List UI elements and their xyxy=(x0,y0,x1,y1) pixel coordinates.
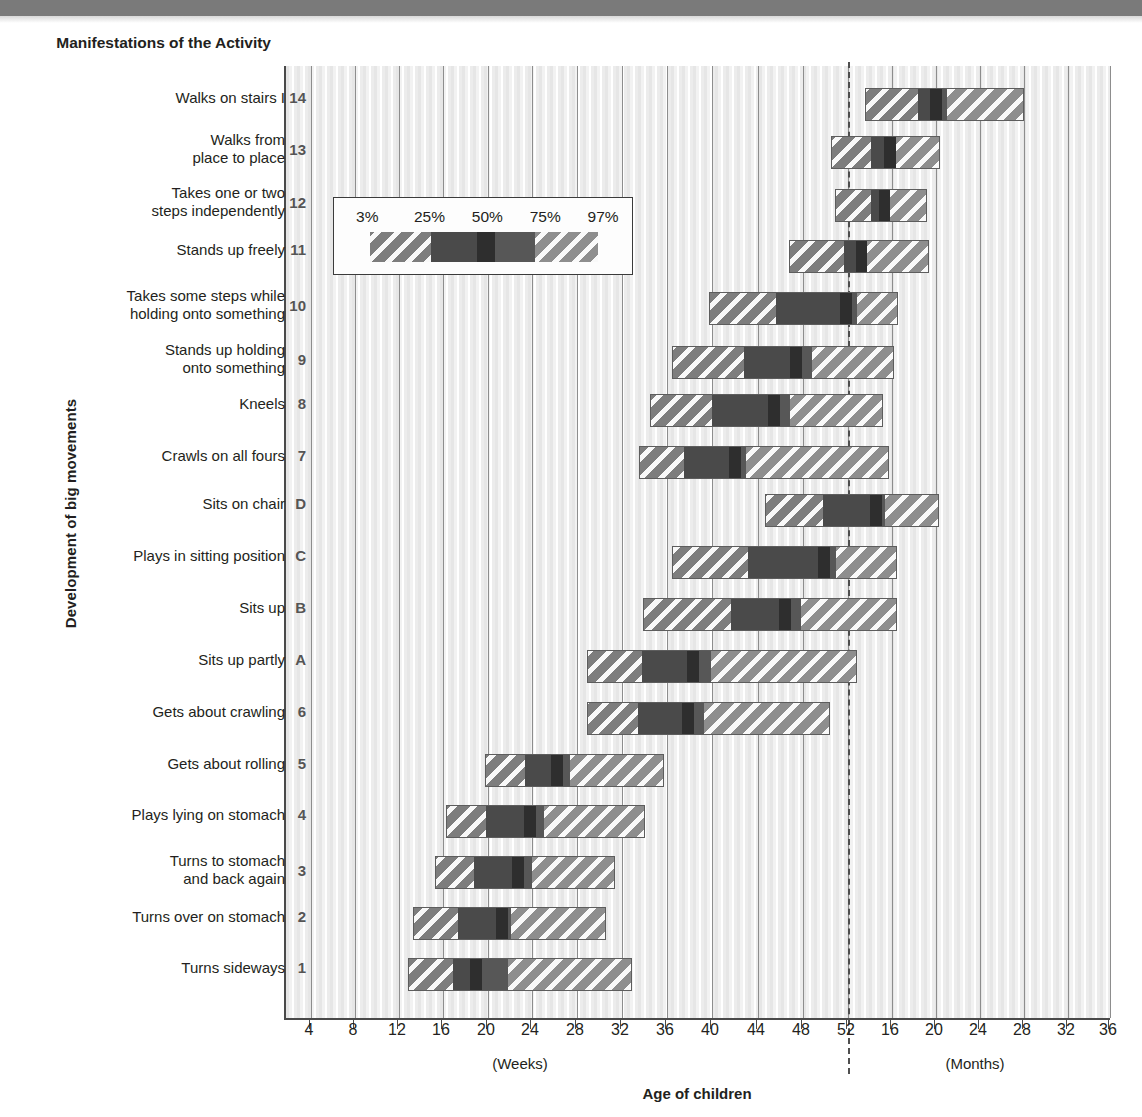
x-tick-label: 20 xyxy=(914,1021,954,1039)
legend-tick-labels: 3%25%50%75%97% xyxy=(334,206,632,228)
legend-tick-25pct: 25% xyxy=(401,208,459,226)
y-code-5: 5 xyxy=(288,755,306,772)
bar-segment-25pct xyxy=(871,137,884,168)
bar-segment-97pct xyxy=(801,599,896,630)
bar-segment-50pct xyxy=(729,447,741,478)
y-code-12: 12 xyxy=(288,194,306,211)
y-code-2: 2 xyxy=(288,908,306,925)
bar-segment-3pct xyxy=(673,347,744,378)
bar-segment-3pct xyxy=(414,908,458,939)
percentile-bar xyxy=(587,702,830,735)
percentile-bar xyxy=(413,907,606,940)
bar-segment-25pct xyxy=(453,959,471,990)
gridline xyxy=(936,66,937,1018)
y-label-8: Kneels xyxy=(0,395,285,413)
bar-segment-3pct xyxy=(409,959,453,990)
y-label-6: Gets about crawling xyxy=(0,703,285,721)
bar-segment-50pct xyxy=(551,755,563,786)
y-code-C: C xyxy=(288,547,306,564)
percentile-bar xyxy=(650,394,883,427)
percentile-bar xyxy=(789,240,929,273)
y-label-11: Stands up freely xyxy=(0,241,285,259)
gridline xyxy=(1068,66,1069,1018)
y-code-8: 8 xyxy=(288,395,306,412)
bar-segment-25pct xyxy=(918,89,930,120)
bar-segment-25pct xyxy=(458,908,497,939)
x-tick-label: 28 xyxy=(555,1021,595,1039)
percentile-bar xyxy=(831,136,940,169)
percentile-bar xyxy=(835,189,927,222)
legend-segment-p50-75 xyxy=(495,232,535,262)
bar-segment-97pct xyxy=(746,447,888,478)
bar-segment-3pct xyxy=(436,857,474,888)
y-code-9: 9 xyxy=(288,351,306,368)
bar-segment-97pct xyxy=(867,241,928,272)
x-tick-label: 8 xyxy=(333,1021,373,1039)
bar-segment-75pct xyxy=(694,703,704,734)
bar-segment-25pct xyxy=(871,190,879,221)
x-tick-label: 24 xyxy=(510,1021,550,1039)
percentile-bar xyxy=(865,88,1024,121)
y-label-1: Turns sideways xyxy=(0,959,285,977)
bar-segment-25pct xyxy=(823,495,869,526)
gridline xyxy=(311,66,312,1018)
bar-segment-97pct xyxy=(885,495,938,526)
bar-segment-50pct xyxy=(818,547,830,578)
gridline xyxy=(1024,66,1025,1018)
bar-segment-75pct xyxy=(482,959,508,990)
bar-segment-97pct xyxy=(812,347,893,378)
bar-segment-50pct xyxy=(779,599,791,630)
bar-segment-97pct xyxy=(508,959,631,990)
x-tick-label: 36 xyxy=(1088,1021,1128,1039)
bar-segment-97pct xyxy=(836,547,896,578)
bar-segment-25pct xyxy=(731,599,779,630)
bar-segment-25pct xyxy=(844,241,856,272)
bar-segment-25pct xyxy=(486,806,525,837)
legend-tick-97pct: 97% xyxy=(574,208,632,226)
bar-segment-97pct xyxy=(857,293,897,324)
bar-segment-25pct xyxy=(474,857,513,888)
y-label-2: Turns over on stomach xyxy=(0,908,285,926)
bar-segment-3pct xyxy=(866,89,918,120)
y-code-4: 4 xyxy=(288,806,306,823)
bar-segment-3pct xyxy=(486,755,525,786)
bar-segment-50pct xyxy=(524,806,536,837)
x-tick-label: 32 xyxy=(600,1021,640,1039)
x-tick-label: 16 xyxy=(421,1021,461,1039)
bar-segment-25pct xyxy=(776,293,839,324)
gridline xyxy=(758,66,759,1018)
y-label-10: Takes some steps while holding onto some… xyxy=(0,287,285,323)
bar-segment-25pct xyxy=(638,703,683,734)
bar-segment-3pct xyxy=(766,495,823,526)
x-tick-label: 48 xyxy=(781,1021,821,1039)
column-header-manifestations: Manifestations of the Activity xyxy=(0,33,285,52)
bar-segment-97pct xyxy=(896,137,939,168)
legend-tick-75pct: 75% xyxy=(516,208,574,226)
x-tick-label: 32 xyxy=(1046,1021,1086,1039)
x-tick-label: 12 xyxy=(377,1021,417,1039)
bar-segment-97pct xyxy=(570,755,663,786)
y-code-14: 14 xyxy=(288,89,306,106)
bar-segment-3pct xyxy=(710,293,776,324)
y-label-C: Plays in sitting position xyxy=(0,547,285,565)
bar-segment-3pct xyxy=(588,703,638,734)
x-axis-unit-weeks: (Weeks) xyxy=(450,1055,590,1072)
bar-segment-25pct xyxy=(748,547,817,578)
x-tick-label: 20 xyxy=(466,1021,506,1039)
y-label-14: Walks on stairs I xyxy=(0,89,285,107)
bar-segment-3pct xyxy=(836,190,871,221)
bar-segment-3pct xyxy=(640,447,684,478)
bar-segment-25pct xyxy=(684,447,730,478)
y-label-13: Walks from place to place xyxy=(0,131,285,167)
bar-segment-50pct xyxy=(496,908,508,939)
y-code-D: D xyxy=(288,495,306,512)
bar-segment-75pct xyxy=(780,395,790,426)
legend-segment-p25-50 xyxy=(431,232,477,262)
y-label-B: Sits up xyxy=(0,599,285,617)
bar-segment-75pct xyxy=(524,857,532,888)
bar-segment-97pct xyxy=(947,89,1023,120)
legend-segment-p3-25 xyxy=(370,232,431,262)
bar-segment-50pct xyxy=(930,89,942,120)
x-tick-label: 16 xyxy=(870,1021,910,1039)
percentile-bar xyxy=(639,446,889,479)
